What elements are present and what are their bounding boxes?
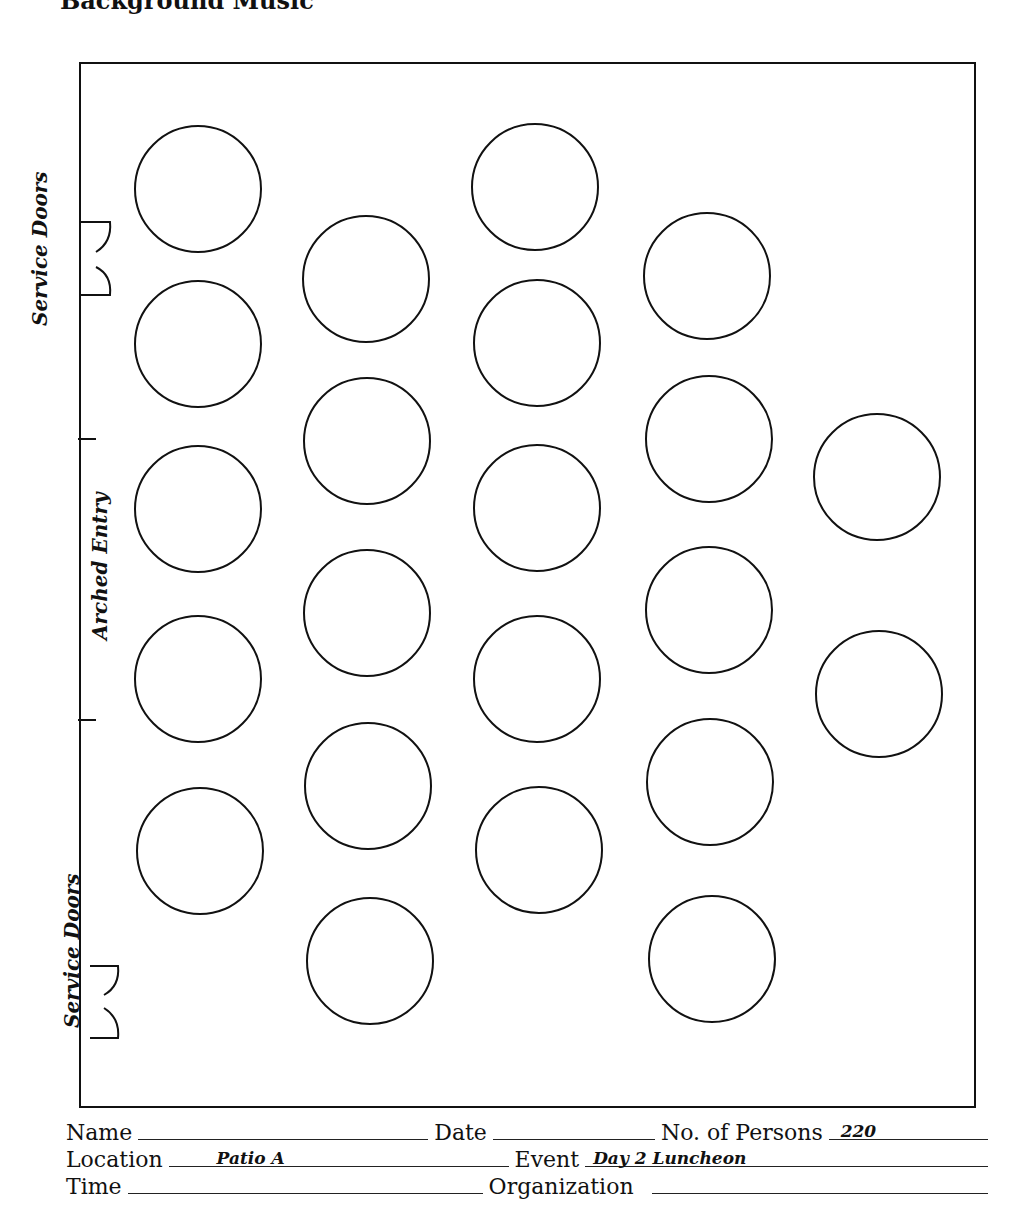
event-field[interactable]: Day 2 Luncheon — [585, 1147, 988, 1167]
round-table-icon — [303, 216, 429, 342]
location-label: Location — [66, 1147, 169, 1172]
round-table-icon — [135, 126, 261, 252]
round-table-icon — [304, 550, 430, 676]
round-table-icon — [816, 631, 942, 757]
organization-field[interactable] — [652, 1174, 988, 1194]
floor-plan — [0, 0, 1034, 1224]
name-field[interactable] — [138, 1120, 428, 1140]
form-row-2: Location Patio A Event Day 2 Luncheon — [66, 1147, 988, 1174]
round-table-icon — [135, 616, 261, 742]
round-table-icon — [644, 213, 770, 339]
service-doors-bottom-label: Service Doors — [60, 873, 84, 1028]
round-table-icon — [135, 446, 261, 572]
round-table-icon — [646, 547, 772, 673]
name-label: Name — [66, 1120, 138, 1145]
round-table-icon — [647, 719, 773, 845]
room-walls — [78, 63, 975, 1107]
round-table-icon — [474, 445, 600, 571]
organization-label: Organization — [489, 1174, 640, 1199]
persons-field[interactable]: 220 — [829, 1120, 988, 1140]
round-table-icon — [137, 788, 263, 914]
round-table-icon — [474, 280, 600, 406]
service-door-top-icon — [81, 222, 110, 295]
room-outline — [80, 63, 975, 1107]
round-table-icon — [649, 896, 775, 1022]
round-table-icon — [646, 376, 772, 502]
round-table-icon — [304, 378, 430, 504]
tables-layer — [135, 124, 942, 1024]
time-label: Time — [66, 1174, 128, 1199]
time-field[interactable] — [128, 1174, 483, 1194]
date-label: Date — [434, 1120, 493, 1145]
event-label: Event — [515, 1147, 586, 1172]
round-table-icon — [474, 616, 600, 742]
round-table-icon — [135, 281, 261, 407]
service-doors-top-label: Service Doors — [28, 171, 52, 326]
round-table-icon — [472, 124, 598, 250]
round-table-icon — [476, 787, 602, 913]
date-field[interactable] — [493, 1120, 655, 1140]
persons-label: No. of Persons — [661, 1120, 829, 1145]
form-row-1: Name Date No. of Persons 220 — [66, 1120, 988, 1147]
round-table-icon — [814, 414, 940, 540]
event-form: Name Date No. of Persons 220 Location Pa… — [66, 1120, 988, 1201]
arched-entry-label: Arched Entry — [88, 492, 112, 640]
location-field[interactable]: Patio A — [169, 1147, 509, 1167]
form-row-3: Time Organization — [66, 1174, 988, 1201]
round-table-icon — [307, 898, 433, 1024]
round-table-icon — [305, 723, 431, 849]
service-door-bottom-icon — [90, 966, 118, 1038]
